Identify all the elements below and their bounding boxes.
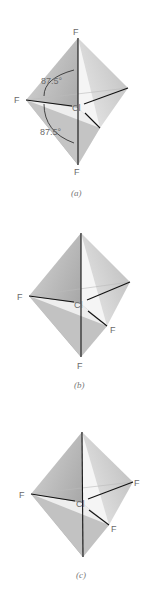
atom-label-center: Cl <box>72 103 81 113</box>
caption-a: (a) <box>71 188 82 198</box>
caption-c: (c) <box>76 570 86 580</box>
atom-label-center: Cl <box>74 300 83 310</box>
panel-a: F F Cl F 87.5° 87.5° (a) <box>0 0 152 200</box>
atom-label-center: Cl <box>76 499 85 509</box>
atom-label-right: F <box>134 478 140 488</box>
atom-label-front-right: F <box>110 325 116 335</box>
atom-label-top: F <box>73 27 79 37</box>
atom-label-left: F <box>19 490 25 500</box>
octahedron-shape <box>26 38 128 165</box>
atom-label-bottom: F <box>74 167 80 177</box>
atom-label-left: F <box>14 95 20 105</box>
atom-label-left: F <box>17 292 23 302</box>
octahedron-shape <box>31 432 133 557</box>
octahedron-shape <box>29 233 130 357</box>
caption-b: (b) <box>74 380 85 390</box>
angle-label-lower: 87.5° <box>40 127 62 137</box>
angle-label-upper: 87.5° <box>41 76 63 86</box>
panel-b: F Cl F F (b) <box>0 200 152 390</box>
panel-c: F Cl F F (c) <box>0 390 152 591</box>
atom-label-front-right: F <box>111 524 117 534</box>
atom-label-bottom: F <box>77 361 83 371</box>
